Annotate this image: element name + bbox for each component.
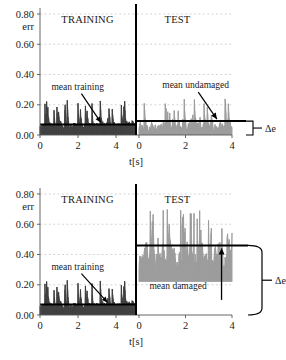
- x-tick-label: 2: [183, 320, 188, 331]
- segment-label-test: TEST: [165, 194, 191, 205]
- y-tick-label: 0.40: [16, 249, 34, 260]
- trace-training: [40, 280, 135, 315]
- x-axis-label: t[s]: [129, 156, 143, 167]
- annotation-mean-undamaged: mean undamaged: [162, 80, 229, 90]
- x-tick-label: 0: [136, 140, 141, 151]
- segment-label-test: TEST: [165, 14, 191, 25]
- x-tick-labels: 024024: [37, 315, 235, 331]
- trace-test: [139, 99, 232, 135]
- y-axis-label: err: [22, 201, 34, 212]
- x-tick-label: 0: [37, 320, 42, 331]
- segment-label-training: TRAINING: [61, 194, 114, 205]
- annotation-mean-training: mean training: [51, 262, 104, 272]
- x-tick-label: 4: [229, 140, 235, 151]
- delta-label: Δe: [265, 123, 276, 134]
- y-tick-label: 0.20: [16, 99, 34, 110]
- x-tick-label: 4: [113, 140, 119, 151]
- y-tick-label: 0.60: [16, 39, 34, 50]
- chart-panel-bottom: 0.000.200.400.600.80err024024t[s]TRAININ…: [0, 180, 286, 360]
- delta-bracket: Δe: [248, 245, 286, 315]
- y-tick-label: 0.60: [16, 219, 34, 230]
- y-tick-label: 0.20: [16, 279, 34, 290]
- x-tick-label: 4: [229, 320, 235, 331]
- trace-training: [40, 100, 135, 135]
- x-tick-label: 2: [75, 320, 80, 331]
- x-axis-label: t[s]: [129, 336, 143, 347]
- x-tick-label: 4: [113, 320, 119, 331]
- y-tick-label: 0.80: [16, 189, 34, 200]
- chart-svg-top: 0.000.200.400.600.80err024024t[s]TRAININ…: [0, 0, 286, 180]
- x-tick-label: 0: [37, 140, 42, 151]
- annotation-mean-damaged: mean damaged: [149, 281, 206, 291]
- x-tick-label: 0: [136, 320, 141, 331]
- y-axis-label: err: [22, 21, 34, 32]
- y-tick-label: 0.00: [16, 130, 34, 141]
- x-tick-labels: 024024: [37, 135, 235, 151]
- x-tick-label: 2: [75, 140, 80, 151]
- x-tick-label: 2: [183, 140, 188, 151]
- y-tick-label: 0.00: [16, 310, 34, 321]
- delta-bracket: Δe: [246, 121, 276, 135]
- chart-panel-top: 0.000.200.400.600.80err024024t[s]TRAININ…: [0, 0, 286, 180]
- y-tick-label: 0.80: [16, 9, 34, 20]
- chart-svg-bottom: 0.000.200.400.600.80err024024t[s]TRAININ…: [0, 180, 286, 360]
- annotation-mean-training: mean training: [51, 82, 104, 92]
- segment-label-training: TRAINING: [61, 14, 114, 25]
- arrowhead-training: [96, 116, 101, 122]
- figure-container: 0.000.200.400.600.80err024024t[s]TRAININ…: [0, 0, 286, 360]
- y-tick-label: 0.40: [16, 69, 34, 80]
- delta-label: Δe: [275, 275, 286, 286]
